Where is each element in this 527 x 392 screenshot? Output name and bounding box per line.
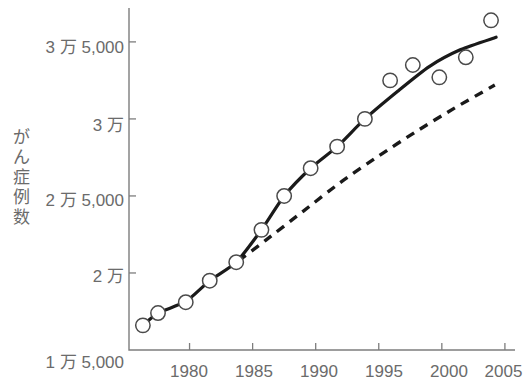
data-point-marker <box>484 13 498 27</box>
y-tick-label-35000: 3 万 5,000 <box>20 33 124 58</box>
data-point-marker <box>151 306 165 320</box>
data-point-marker <box>432 70 446 84</box>
x-tick-label-1985: 1985 <box>228 362 280 382</box>
data-markers <box>136 13 499 332</box>
chart-figure: が ん 症 例 数 1 万 5,000 2 万 2 万 5,000 3 万 3 … <box>0 0 527 392</box>
data-point-marker <box>303 161 317 175</box>
y-tick-label-15000: 1 万 5,000 <box>20 348 124 373</box>
y-tick-label-30000: 3 万 <box>20 111 124 136</box>
x-tick-label-1980: 1980 <box>163 362 215 382</box>
data-point-marker <box>459 50 473 64</box>
data-point-marker <box>358 112 372 126</box>
data-point-marker <box>179 295 193 309</box>
y-tick-label-20000: 2 万 <box>20 262 124 287</box>
x-tick-label-1990: 1990 <box>293 362 345 382</box>
y-axis-title-char-3: 症 <box>8 168 34 188</box>
data-point-marker <box>254 223 268 237</box>
y-axis-title-char-2: ん <box>8 148 34 168</box>
data-point-marker <box>136 318 150 332</box>
y-tick-label-25000: 2 万 5,000 <box>20 186 124 211</box>
x-tick-label-1995: 1995 <box>358 362 410 382</box>
data-point-marker <box>229 255 243 269</box>
y-axis-title-char-5: 数 <box>8 208 34 228</box>
x-tick-label-2005: 2005 <box>480 362 527 382</box>
data-point-marker <box>383 73 397 87</box>
data-point-marker <box>277 189 291 203</box>
data-point-marker <box>330 139 344 153</box>
data-point-marker <box>406 58 420 72</box>
x-tick-label-2000: 2000 <box>423 362 475 382</box>
data-point-marker <box>203 273 217 287</box>
y-axis-title: が ん 症 例 数 <box>8 128 34 228</box>
